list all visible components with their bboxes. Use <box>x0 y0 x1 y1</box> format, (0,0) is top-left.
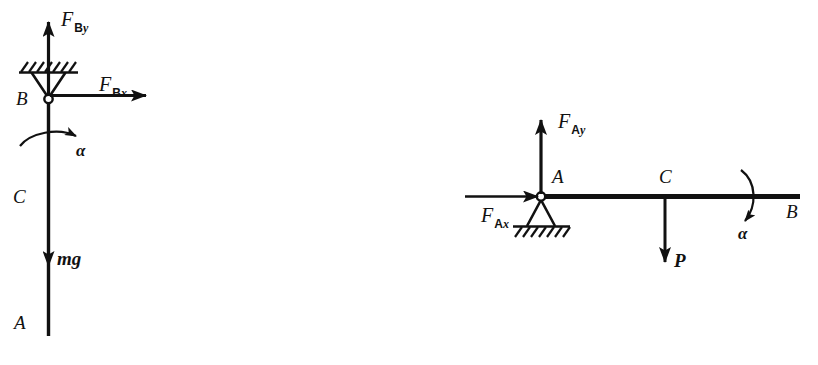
force-mg-label: mg <box>57 248 81 269</box>
force-F-Ay-symbol: F <box>557 110 571 132</box>
point-label-B: B <box>786 201 798 222</box>
left-diagram: FBy FBx B α C mg A <box>12 8 146 336</box>
force-F-Ax-subscript-roman: A <box>494 217 503 231</box>
angular-acceleration-alpha-label: α <box>76 141 86 160</box>
point-label-A: A <box>12 312 26 333</box>
point-label-C: C <box>13 186 26 207</box>
diagram-canvas: FBy FBx B α C mg A <box>0 0 818 365</box>
point-label-A: A <box>550 166 564 187</box>
force-F-By-subscript-italic: y <box>81 21 89 35</box>
point-label-C: C <box>659 166 672 187</box>
point-label-B: B <box>16 88 28 109</box>
force-F-Ay-label: FAy <box>557 110 586 137</box>
support-hatching-A <box>515 227 570 237</box>
force-F-Ax-label: FAx <box>480 204 509 231</box>
right-diagram: FAy A FAx C P α B <box>465 110 800 271</box>
force-F-By-label: FBy <box>60 8 89 35</box>
force-F-Bx-subscript-roman: B <box>112 86 121 100</box>
force-P-label: P <box>673 250 686 271</box>
force-F-Ax-symbol: F <box>480 204 494 226</box>
pin-support-A <box>513 200 570 237</box>
force-F-By-subscript-roman: B <box>74 21 83 35</box>
force-F-Ay-subscript-roman: A <box>571 123 580 137</box>
free-body-diagram-figure: FBy FBx B α C mg A <box>0 0 818 365</box>
force-F-Ax-subscript-italic: x <box>502 217 509 231</box>
force-F-Bx-symbol: F <box>98 73 112 95</box>
force-F-Bx-subscript-italic: x <box>120 86 127 100</box>
angular-acceleration-alpha-label: α <box>738 224 748 243</box>
force-F-By-symbol: F <box>60 8 74 30</box>
force-F-Ay-subscript-italic: y <box>578 123 586 137</box>
support-triangle-A <box>527 200 555 226</box>
